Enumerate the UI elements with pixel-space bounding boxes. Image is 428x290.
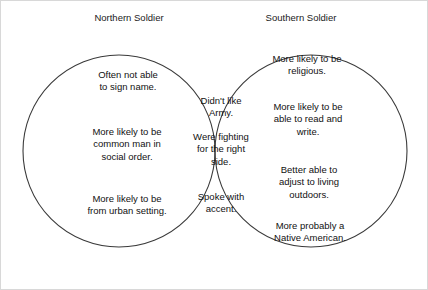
right-set-title: Southern Soldier (241, 12, 361, 24)
intersection-item: Were fightingfor the rightside. (185, 131, 257, 168)
right-set-item: More probably aNative American. (252, 220, 368, 245)
intersection-item: Spoke withaccent. (186, 191, 256, 216)
left-set-item: More likely to befrom urban setting. (63, 193, 191, 218)
right-set-item: Better able toadjust to livingoutdoors. (253, 164, 365, 201)
left-set-item: More likely to becommon man insocial ord… (65, 126, 189, 163)
venn-diagram-canvas: Northern Soldier Southern Soldier Often … (0, 0, 428, 290)
right-set-item: More likely to beable to read andwrite. (250, 101, 366, 138)
intersection-item: Didn't likeArmy. (187, 95, 255, 120)
left-set-title: Northern Soldier (69, 12, 189, 24)
right-set-item: More likely to bereligious. (251, 53, 363, 78)
left-set-item: Often not ableto sign name. (69, 69, 187, 94)
